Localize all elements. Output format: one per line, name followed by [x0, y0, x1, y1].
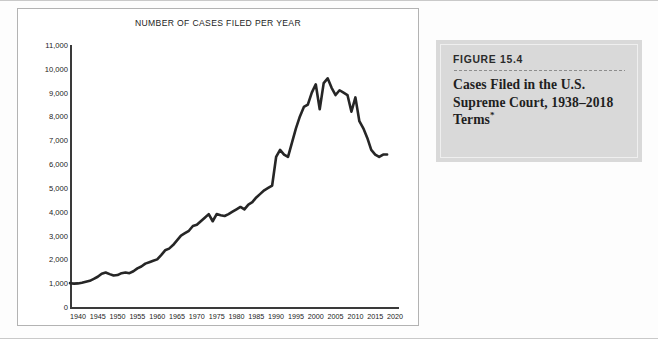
x-tick-label: 1980 — [228, 312, 244, 321]
x-tick-label: 2010 — [347, 312, 363, 321]
x-tick-label: 1975 — [209, 312, 225, 321]
figure-caption-footnote-marker: * — [490, 111, 495, 121]
figure-caption-main: Cases Filed in the U.S. Supreme Court, 1… — [453, 77, 613, 127]
x-tick-label: 1995 — [288, 312, 304, 321]
chart-panel: NUMBER OF CASES FILED PER YEAR 01,0002,0… — [17, 8, 419, 326]
figure-dotted-divider — [453, 68, 625, 71]
x-tick-label: 1970 — [189, 312, 205, 321]
figure-number-label: FIGURE 15.4 — [453, 54, 625, 65]
x-tick-label: 1950 — [110, 312, 126, 321]
x-tick-label: 1940 — [70, 312, 86, 321]
figure-caption-card-inner: FIGURE 15.4 Cases Filed in the U.S. Supr… — [440, 44, 638, 158]
x-tick-label: 1985 — [248, 312, 264, 321]
figure-caption-card: FIGURE 15.4 Cases Filed in the U.S. Supr… — [436, 40, 642, 162]
x-tick-label: 2020 — [387, 312, 403, 321]
figure-caption-text: Cases Filed in the U.S. Supreme Court, 1… — [453, 76, 625, 129]
x-tick-label: 2015 — [367, 312, 383, 321]
x-tick-label: 1960 — [149, 312, 165, 321]
x-tick-label: 1955 — [129, 312, 145, 321]
x-tick-label: 1990 — [268, 312, 284, 321]
x-tick-label: 2005 — [328, 312, 344, 321]
x-tick-label: 1945 — [90, 312, 106, 321]
page-rule-top — [0, 0, 658, 1]
cases-filed-line-series — [18, 9, 420, 327]
x-tick-label: 1965 — [169, 312, 185, 321]
figure-page: NUMBER OF CASES FILED PER YEAR 01,0002,0… — [0, 0, 658, 339]
x-tick-label: 2000 — [308, 312, 324, 321]
